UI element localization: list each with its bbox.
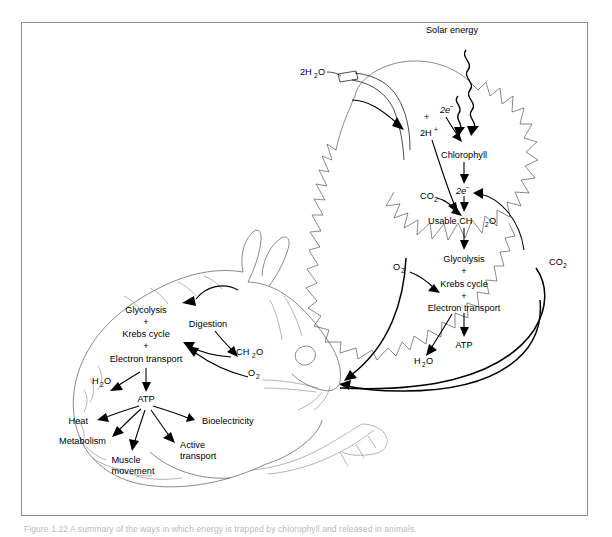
label-protons: 2H + (420, 126, 438, 138)
label-glycolysis-leaf: Glycolysis (443, 254, 485, 264)
label-usable-ch2o: Usable CH 2 O (428, 216, 496, 228)
label-muscle-line2: movement (112, 466, 155, 476)
leaf-labels: Solar energy 2H 2 O 2e − + 2H + Chloroph… (300, 25, 567, 368)
figure-page: Solar energy 2H 2 O 2e − + 2H + Chloroph… (0, 0, 612, 537)
label-chlorophyll: Chlorophyll (441, 150, 487, 160)
label-atp-animal: ATP (137, 394, 154, 404)
svg-text:2: 2 (401, 267, 405, 274)
svg-text:Usable CH: Usable CH (428, 216, 472, 226)
svg-text:2e: 2e (439, 105, 450, 115)
label-muscle-line1: Muscle (111, 455, 140, 465)
svg-text:O: O (256, 347, 263, 357)
svg-text:O: O (248, 368, 255, 378)
label-glycolysis-animal: Glycolysis (125, 305, 167, 315)
label-solar-energy: Solar energy (426, 25, 478, 35)
leaf-petiole (338, 71, 410, 160)
solar-energy-wave-icon (454, 50, 479, 137)
leaf-shape (306, 61, 538, 360)
label-o2-leaf: O 2 (393, 262, 405, 274)
label-electrons-bottom: 2e − (455, 184, 470, 196)
label-electron-transport-animal: Electron transport (110, 354, 183, 364)
svg-text:O: O (489, 216, 496, 226)
label-electrons-top: 2e − (439, 103, 454, 115)
label-co2-right: CO 2 (549, 257, 567, 269)
figure-caption: Figure 1.22 A summary of the ways in whi… (24, 524, 584, 535)
svg-text:+: + (434, 126, 438, 133)
label-plus-one-leaf: + (461, 266, 466, 276)
svg-text:O: O (393, 262, 400, 272)
svg-text:CO: CO (420, 191, 434, 201)
label-plus-two-animal: + (143, 341, 148, 351)
svg-text:H: H (414, 356, 421, 366)
label-plus-sign: + (424, 112, 429, 122)
svg-text:−: − (466, 184, 470, 191)
label-o2-animal: O 2 (248, 368, 260, 380)
svg-text:2: 2 (256, 373, 260, 380)
label-digestion: Digestion (189, 319, 227, 329)
svg-text:2H: 2H (300, 67, 312, 77)
label-active-transport-line2: transport (180, 451, 217, 461)
label-water-input: 2H 2 O (300, 67, 325, 79)
label-electron-transport-leaf: Electron transport (428, 303, 501, 313)
svg-text:−: − (450, 103, 454, 110)
svg-text:H: H (92, 376, 99, 386)
label-atp-leaf: ATP (455, 340, 472, 350)
svg-text:O: O (318, 67, 325, 77)
energy-flow-diagram: Solar energy 2H 2 O 2e − + 2H + Chloroph… (0, 0, 612, 537)
svg-text:CH: CH (236, 347, 249, 357)
label-active-transport-line1: Active (180, 440, 205, 450)
svg-text:2H: 2H (420, 128, 432, 138)
svg-text:2e: 2e (455, 186, 466, 196)
label-krebs-animal: Krebs cycle (122, 329, 170, 339)
label-krebs-leaf: Krebs cycle (440, 279, 488, 289)
svg-text:2: 2 (434, 196, 438, 203)
svg-text:2: 2 (563, 262, 567, 269)
svg-text:O: O (426, 356, 433, 366)
label-plus-one-animal: + (143, 317, 148, 327)
svg-text:CO: CO (549, 257, 563, 267)
label-co2-left: CO 2 (420, 191, 438, 203)
water-input-arrow (327, 72, 404, 130)
label-ch2o-animal: CH 2 O (236, 347, 263, 359)
svg-text:O: O (104, 376, 111, 386)
label-bioelectricity: Bioelectricity (202, 416, 254, 426)
label-h2o-leaf: H 2 O (414, 356, 433, 368)
label-metabolism: Metabolism (59, 436, 106, 446)
label-heat: Heat (69, 416, 89, 426)
label-plus-two-leaf: + (461, 291, 466, 301)
